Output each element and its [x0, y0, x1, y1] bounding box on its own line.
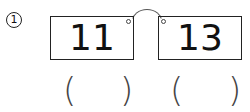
answer-left-open-paren: ( — [63, 73, 76, 107]
answer-left-close-paren: ) — [120, 73, 133, 107]
hole-icon — [126, 19, 131, 24]
answer-right-close-paren: ) — [228, 73, 241, 107]
number-card-left: 11 — [50, 16, 134, 60]
answer-right-open-paren: ( — [170, 73, 183, 107]
problem-number: 1 — [6, 12, 22, 28]
card-value: 13 — [177, 20, 223, 56]
number-card-right: 13 — [158, 16, 242, 60]
hole-icon — [161, 19, 166, 24]
card-value: 11 — [69, 20, 115, 56]
